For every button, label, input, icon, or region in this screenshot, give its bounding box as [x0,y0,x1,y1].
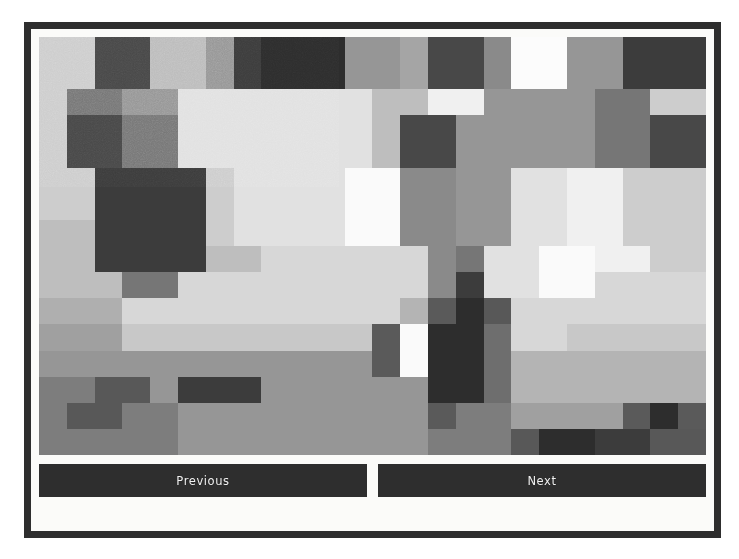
pixel-cell [206,142,234,168]
next-button[interactable]: Next [378,464,706,497]
pixel-cell [289,324,317,350]
pixel-cell [289,429,317,455]
pixel-cell [539,324,567,350]
pixel-cell [428,168,456,194]
pixel-cell [206,272,234,298]
pixel-cell [456,63,484,89]
pixel-cell [428,324,456,350]
pixel-cell [511,37,539,63]
pixel-cell [95,115,123,141]
pixel-cell [206,220,234,246]
pixel-cell [650,377,678,403]
pixel-cell [261,377,289,403]
pixel-cell [289,142,317,168]
pixel-cell [511,272,539,298]
pixel-cell [567,403,595,429]
pixel-cell [372,298,400,324]
pixel-cell [178,220,206,246]
pixel-cell [345,377,373,403]
pixel-cell [67,298,95,324]
pixel-cell [428,272,456,298]
pixel-cell [678,298,706,324]
pixel-cell [623,37,651,63]
pixel-cell [456,429,484,455]
pixel-cell [122,377,150,403]
pixel-cell [345,89,373,115]
pixel-cell [39,220,67,246]
pixel-cell [67,246,95,272]
pixel-cell [567,142,595,168]
pixel-cell [456,403,484,429]
pixel-cell [67,351,95,377]
pixel-cell [372,168,400,194]
pixel-cell [234,246,262,272]
pixel-cell [150,324,178,350]
pixel-cell [206,168,234,194]
pixel-cell [150,220,178,246]
pixel-cell [206,37,234,63]
pixel-cell [261,115,289,141]
pixel-cell [95,246,123,272]
pixel-cell [289,63,317,89]
pixel-cell [95,377,123,403]
pixel-cell [122,142,150,168]
pixel-cell [261,194,289,220]
pixel-cell [39,246,67,272]
pixel-cell [150,89,178,115]
pixel-cell [178,272,206,298]
pixel-cell [178,89,206,115]
pixel-cell [39,142,67,168]
pixel-cell [372,351,400,377]
pixel-cell [539,298,567,324]
pixel-cell [261,220,289,246]
pixel-cell [400,194,428,220]
pixel-cell [95,351,123,377]
previous-button[interactable]: Previous [39,464,367,497]
pixel-cell [95,272,123,298]
pixel-cell [234,377,262,403]
pixel-cell [678,324,706,350]
pixel-cell [234,115,262,141]
pixel-cell [484,377,512,403]
pixel-cell [484,115,512,141]
pixel-cell [178,168,206,194]
pixel-cell [400,63,428,89]
pixel-cell [122,429,150,455]
pixel-cell [400,272,428,298]
pixel-cell [345,246,373,272]
pixel-cell [539,403,567,429]
pixel-cell [428,403,456,429]
pixel-cell [623,142,651,168]
pixel-cell [456,298,484,324]
pixel-cell [511,194,539,220]
pixel-cell [595,168,623,194]
pixel-cell [428,298,456,324]
pixel-cell [39,168,67,194]
pixel-cell [150,194,178,220]
pixel-cell [345,142,373,168]
pixel-cell [39,115,67,141]
pixel-cell [261,89,289,115]
pixel-cell [67,403,95,429]
pixel-cell [317,377,345,403]
pixel-cell [567,246,595,272]
image-display-area[interactable] [39,37,706,455]
pixel-cell [372,377,400,403]
pixel-cell [428,115,456,141]
pixel-cell [511,89,539,115]
pixel-cell [234,324,262,350]
pixel-cell [539,220,567,246]
pixel-cell [261,142,289,168]
pixel-cell [345,351,373,377]
pixel-cell [95,403,123,429]
pixel-cell [484,194,512,220]
pixel-cell [345,220,373,246]
pixel-cell [484,63,512,89]
pixel-cell [372,115,400,141]
pixel-cell [39,63,67,89]
pixel-cell [261,37,289,63]
pixel-cell [39,37,67,63]
pixel-cell [456,89,484,115]
pixel-cell [650,429,678,455]
pixel-cell [39,377,67,403]
